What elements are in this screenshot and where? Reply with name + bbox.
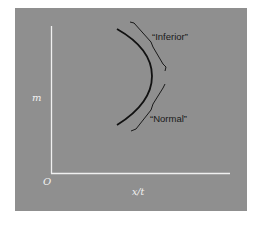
diagram-canvas: “Inferior” “Normal” m O x/t — [0, 0, 260, 225]
inferior-label: “Inferior” — [152, 31, 188, 42]
x-axis-label: x/t — [132, 186, 145, 197]
normal-label: “Normal” — [150, 113, 187, 124]
y-axis-label: m — [32, 92, 41, 103]
backward-bending-curve — [117, 29, 152, 125]
origin-label: O — [43, 176, 51, 187]
inferior-brace — [130, 22, 166, 71]
